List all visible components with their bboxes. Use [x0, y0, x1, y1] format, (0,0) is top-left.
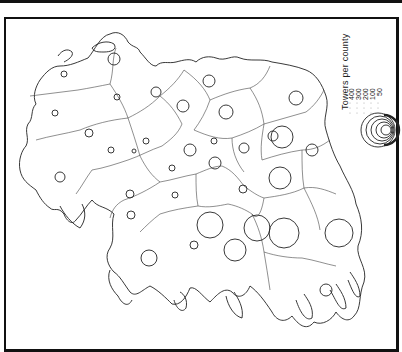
- legend-label-200: 200: [362, 88, 369, 100]
- legend-symbols: [361, 113, 399, 147]
- legend-label-400: 400: [348, 88, 355, 100]
- legend-label-50: 50: [376, 88, 383, 96]
- legend-guide-dots: [350, 103, 379, 114]
- legend-label-300: 300: [355, 88, 362, 100]
- tower-count-circles: [52, 53, 353, 296]
- legend-label-100: 100: [369, 88, 376, 100]
- county-boundaries: [30, 48, 336, 290]
